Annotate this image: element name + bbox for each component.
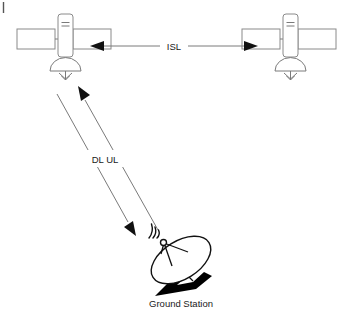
downlink-uplink-links: DL UL: [57, 86, 158, 236]
downlink-arrowhead: [124, 221, 136, 236]
satellite-antenna-icon: [275, 58, 306, 80]
signal-wave-icon: [149, 224, 159, 238]
satellite-link-diagram: ISL DL UL: [0, 0, 346, 322]
satellite-body: [283, 14, 298, 57]
uplink-arrowhead: [78, 86, 90, 101]
satellite-antenna-icon: [50, 58, 81, 80]
ground-station: Ground Station: [143, 224, 219, 309]
ground-station-feed-horn: [161, 240, 167, 246]
solar-panel-right: [293, 29, 336, 49]
isl-link: ISL: [90, 41, 258, 52]
satellite-body: [58, 14, 73, 57]
diagram-canvas: ISL DL UL: [0, 0, 346, 322]
solar-panel-left: [17, 29, 60, 49]
dl-ul-label: DL UL: [92, 154, 119, 165]
isl-label: ISL: [167, 41, 181, 52]
satellite-right: [242, 14, 336, 80]
ground-station-label: Ground Station: [149, 298, 213, 309]
